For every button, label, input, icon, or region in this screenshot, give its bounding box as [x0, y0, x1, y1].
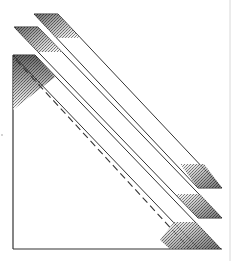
stray-dot [1, 134, 2, 135]
middle-band [14, 27, 222, 218]
diagram-canvas [0, 0, 235, 261]
square-frame [13, 55, 222, 249]
dashed-diagonal [16, 60, 190, 249]
top-band [34, 14, 222, 188]
